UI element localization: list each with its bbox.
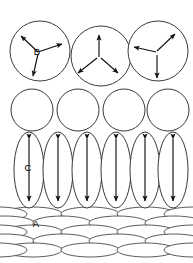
layer-a-flat-ellipse-stack — [0, 207, 193, 257]
region-label-c: C — [25, 162, 32, 173]
layer-mid-circles — [11, 89, 189, 131]
medium-circle — [57, 89, 99, 131]
layer-a-row — [0, 243, 193, 257]
medium-circle — [147, 89, 189, 131]
medium-circle — [11, 89, 53, 131]
large-circle — [71, 26, 131, 86]
large-circle — [128, 21, 188, 81]
region-label-b: B — [34, 46, 40, 57]
figure-root: B C A — [0, 0, 193, 263]
region-label-a: A — [33, 218, 40, 229]
layered-particle-diagram: B C A — [0, 0, 193, 263]
flat-ellipse — [61, 243, 119, 257]
medium-circle — [103, 89, 145, 131]
layer-c-vertical-ellipses — [14, 132, 188, 208]
